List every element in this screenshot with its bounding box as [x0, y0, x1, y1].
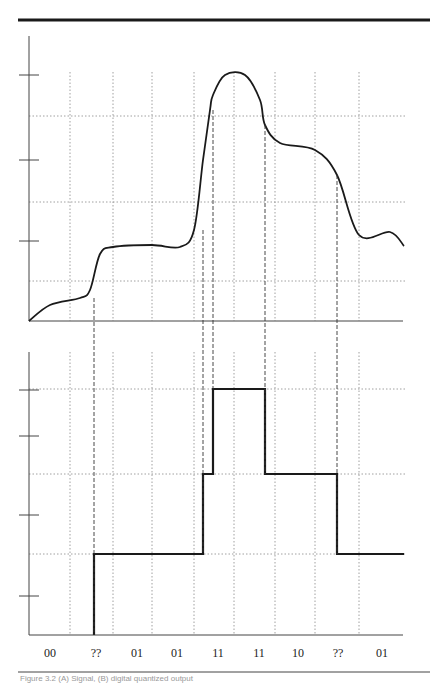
code-label: 00: [35, 646, 65, 661]
code-label: ??: [323, 646, 353, 661]
upper-panel-signal: [19, 36, 406, 321]
figure-caption: Figure 3.2 (A) Signal, (B) digital quant…: [20, 674, 193, 683]
sampling-dashed-lines: [94, 110, 337, 635]
code-label: 01: [122, 646, 152, 661]
signal-curve: [29, 72, 404, 321]
lower-panel-digital: [19, 352, 406, 635]
digital-step-line: [94, 389, 404, 635]
code-label: 11: [244, 646, 274, 661]
code-label: 01: [367, 646, 397, 661]
code-label: 01: [162, 646, 192, 661]
code-label: 10: [283, 646, 313, 661]
code-label: 11: [203, 646, 233, 661]
code-label: ??: [81, 646, 111, 661]
